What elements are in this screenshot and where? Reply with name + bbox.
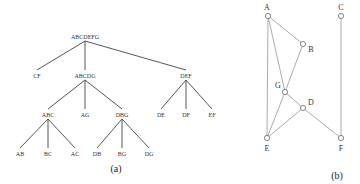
hierarchy-tree-a: ABCDEFGCFABCDGDEFABCAGDBGDEDFEFABBCACDBB… — [16, 34, 216, 175]
tree-edge-root-cf — [37, 41, 85, 70]
graph-node-label-D: D — [308, 98, 314, 107]
graph-node-label-A: A — [264, 3, 270, 12]
tree-node-bc: BC — [44, 151, 52, 157]
tree-edge-abc-ac — [48, 119, 75, 148]
tree-node-ag: AG — [81, 112, 90, 118]
tree-node-db: DB — [93, 151, 101, 157]
graph-edge-G-E — [267, 92, 285, 138]
graph-edges — [267, 16, 341, 138]
graph-nodes — [264, 13, 343, 140]
tree-node-de: DE — [157, 112, 165, 118]
tree-node-cf: CF — [33, 73, 41, 79]
graph-edge-A-E — [267, 16, 268, 138]
caption-b: (b) — [331, 170, 343, 182]
graph-node-label-C: C — [338, 3, 343, 12]
tree-node-def: DEF — [180, 73, 192, 79]
graph-edge-D-F — [303, 108, 341, 138]
tree-edge-dbg-db — [97, 119, 122, 148]
tree-edge-def-de — [161, 80, 186, 109]
graph-edge-B-G — [285, 44, 303, 92]
graph-node-E — [264, 135, 269, 140]
tree-node-bg: BG — [118, 151, 127, 157]
tree-node-abc: ABC — [42, 112, 54, 118]
graph-node-label-E: E — [265, 144, 270, 153]
tree-edge-dbg-dg — [122, 119, 149, 148]
tree-edge-abcdg-dbg — [85, 80, 122, 109]
graph-node-G — [282, 89, 287, 94]
graph-node-F — [338, 135, 343, 140]
tree-node-dg: DG — [145, 151, 154, 157]
tree-node-abcdg: ABCDG — [74, 73, 96, 79]
tree-edge-abcdg-abc — [48, 80, 85, 109]
tree-edges — [20, 41, 212, 148]
tree-edge-abc-ab — [20, 119, 48, 148]
graph-b: ABCGDEF (b) — [264, 3, 344, 182]
tree-node-ab: AB — [16, 151, 24, 157]
graph-node-label-B: B — [308, 45, 313, 54]
tree-node-df: DF — [182, 112, 190, 118]
graph-node-D — [300, 105, 305, 110]
caption-a: (a) — [110, 163, 121, 175]
graph-node-C — [338, 13, 343, 18]
tree-edge-root-def — [85, 41, 186, 70]
graph-node-B — [300, 41, 305, 46]
tree-edge-def-ef — [186, 80, 212, 109]
tree-node-dbg: DBG — [116, 112, 129, 118]
graph-edge-D-E — [267, 108, 303, 138]
tree-node-ef: EF — [208, 112, 216, 118]
tree-node-ac: AC — [71, 151, 79, 157]
graph-edge-G-D — [285, 92, 303, 108]
tree-node-root: ABCDEFG — [71, 34, 100, 40]
graph-node-label-F: F — [339, 144, 344, 153]
graph-node-A — [265, 13, 270, 18]
figure-canvas: ABCDEFGCFABCDGDEFABCAGDBGDEDFEFABBCACDBB… — [0, 0, 360, 184]
graph-node-label-G: G — [275, 81, 281, 90]
